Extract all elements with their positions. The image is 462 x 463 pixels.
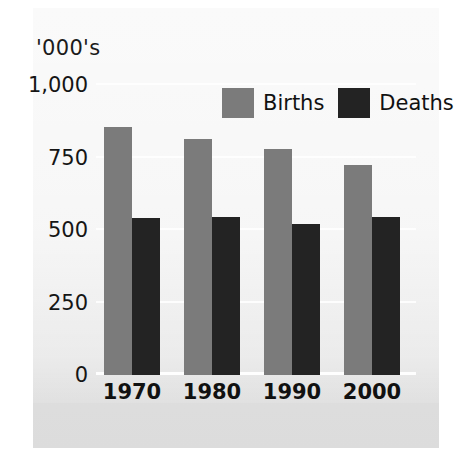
bar-deaths-1970 [132,218,160,375]
x-axis-tick-label: 1990 [252,380,332,404]
bar-births-1980 [184,139,212,375]
bar-births-2000 [344,165,372,375]
bar-births-1990 [264,149,292,375]
x-axis-tick-label: 1980 [172,380,252,404]
x-axis-tick-labels: 1970198019902000 [96,380,416,412]
y-axis-unit-label: '000's [36,36,100,60]
bar-deaths-1990 [292,224,320,375]
legend-item-births[interactable]: Births [222,88,324,118]
bar-births-1970 [104,127,132,375]
legend-label-births: Births [263,91,324,115]
legend-item-deaths[interactable]: Deaths [338,88,453,118]
bar-group [264,85,320,375]
chart-figure: '000's 02505007501,000 1970198019902000 … [0,0,462,463]
y-axis-tick-labels: 02505007501,000 [0,85,88,375]
legend-swatch-births [222,88,254,118]
y-axis-tick-label: 750 [2,146,88,170]
bar-deaths-2000 [372,217,400,375]
bar-deaths-1980 [212,217,240,375]
legend-swatch-deaths [338,88,370,118]
x-axis-tick-label: 2000 [332,380,412,404]
x-axis-tick-label: 1970 [92,380,172,404]
y-axis-tick-label: 1,000 [2,73,88,97]
y-axis-tick-label: 250 [2,291,88,315]
bar-group [344,85,400,375]
bar-group [184,85,240,375]
bar-group [104,85,160,375]
plot-area [96,85,416,375]
chart-legend: BirthsDeaths [222,88,454,118]
y-axis-tick-label: 0 [2,363,88,387]
y-axis-tick-label: 500 [2,218,88,242]
legend-label-deaths: Deaths [379,91,453,115]
